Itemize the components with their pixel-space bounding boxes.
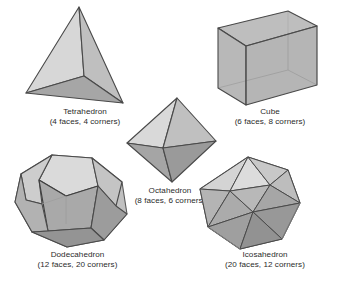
cube-shape [216, 9, 320, 107]
dodecahedron-counts: (12 faces, 20 corners) [0, 260, 155, 270]
dodecahedron-label: Dodecahedron [0, 250, 155, 260]
cube-label: Cube [200, 107, 340, 117]
cube-caption: Cube (6 faces, 8 corners) [200, 107, 340, 128]
icosahedron-caption: Icosahedron (20 faces, 12 corners) [190, 250, 340, 271]
tetrahedron-shape [22, 4, 132, 106]
dodecahedron-caption: Dodecahedron (12 faces, 20 corners) [0, 250, 155, 271]
dodecahedron-shape [12, 152, 134, 252]
cube-counts: (6 faces, 8 corners) [200, 117, 340, 127]
icosahedron-shape [196, 155, 306, 253]
icosahedron-counts: (20 faces, 12 corners) [190, 260, 340, 270]
icosahedron-label: Icosahedron [190, 250, 340, 260]
platonic-solids-figure: Tetrahedron (4 faces, 4 corners) Cube (6… [0, 0, 340, 289]
